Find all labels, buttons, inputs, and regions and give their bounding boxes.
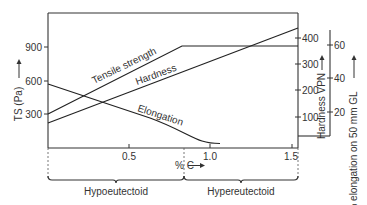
ts-tick-600: 600 (25, 76, 42, 87)
hardness-label: Hardness (134, 62, 178, 87)
el-tick-60: 60 (334, 40, 346, 51)
ts-tick-900: 900 (25, 42, 42, 53)
ts-axis-ticks (44, 47, 48, 114)
hypereutectoid-label: Hypereutectoid (207, 186, 274, 197)
hv-tick-300: 300 (302, 59, 319, 70)
x-axis-arrowhead-icon (200, 163, 205, 168)
elongation-label: Elongation (136, 102, 184, 127)
hardness-axis-label: Hardness VPN (316, 73, 327, 139)
tensile-strength-line (48, 46, 298, 114)
x-tick-1-5: 1.5 (284, 151, 298, 162)
hv-tick-400: 400 (302, 33, 319, 44)
hypoeutectoid-bracket (48, 176, 184, 183)
plot-frame (48, 13, 330, 148)
elongation-axis-label-group: % elongation on 50 mm GL (348, 55, 359, 205)
ts-axis-label-group: TS (Pa) (13, 59, 24, 121)
el-tick-20: 20 (334, 107, 346, 118)
region-dividers (48, 148, 298, 178)
el-tick-40: 40 (334, 73, 346, 84)
chart-canvas: 900 600 300 TS (Pa) 400 300 200 100 Hard… (0, 0, 367, 205)
x-tick-1-0: 1.0 (203, 151, 217, 162)
hypoeutectoid-label: Hypoeutectoid (84, 186, 148, 197)
ts-axis-label: TS (Pa) (13, 87, 24, 121)
x-tick-0-5: 0.5 (122, 151, 136, 162)
ts-tick-300: 300 (25, 109, 42, 120)
hardness-axis-arrowhead-icon (320, 55, 325, 60)
x-axis-ticks (129, 144, 292, 148)
hypereutectoid-bracket (184, 176, 298, 183)
elongation-axis-label: % elongation on 50 mm GL (348, 91, 359, 205)
hardness-line (48, 28, 298, 123)
elongation-axis-arrowhead-icon (352, 55, 357, 60)
ts-axis-arrowhead-icon (17, 59, 22, 64)
